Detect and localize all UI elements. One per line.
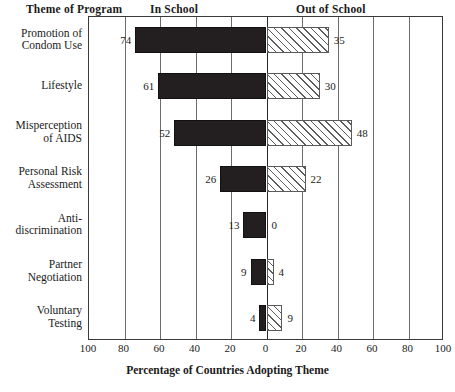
x-tick-label: 60 <box>154 342 165 354</box>
category-label: Anti-discrimination <box>0 212 82 237</box>
category-label-line: discrimination <box>0 224 82 237</box>
category-label: Misperceptionof AIDS <box>0 119 82 144</box>
x-tick-label: 20 <box>296 342 307 354</box>
x-tick-label: 100 <box>435 342 452 354</box>
bar-out-of-school <box>267 305 283 331</box>
bar-out-of-school <box>267 166 306 192</box>
bar-in-school <box>174 120 266 146</box>
category-label-line: Promotion of <box>0 27 82 40</box>
value-label-in-school: 74 <box>105 34 131 46</box>
plot-area: 74356130524826221309449 <box>88 16 443 340</box>
category-label-line: Misperception <box>0 119 82 132</box>
bar-out-of-school <box>267 120 352 146</box>
value-label-in-school: 9 <box>221 266 247 278</box>
category-label-line: Partner <box>0 258 82 271</box>
x-tick-label: 80 <box>118 342 129 354</box>
x-tick-label: 40 <box>331 342 342 354</box>
category-label-line: Testing <box>0 317 82 330</box>
value-label-in-school: 52 <box>144 127 170 139</box>
x-tick-label: 40 <box>189 342 200 354</box>
bar-in-school <box>243 212 266 238</box>
value-label-in-school: 4 <box>229 312 255 324</box>
value-label-in-school: 61 <box>128 80 154 92</box>
bar-out-of-school <box>267 259 274 285</box>
bar-row: 49 <box>89 295 442 341</box>
column-header-out-of-school: Out of School <box>296 3 366 15</box>
chart-root: Theme of Program In School Out of School… <box>0 0 455 392</box>
bar-row: 7435 <box>89 17 442 63</box>
value-label-out-of-school: 22 <box>311 173 322 185</box>
value-label-out-of-school: 4 <box>279 266 285 278</box>
x-tick-label: 0 <box>263 342 269 354</box>
value-label-out-of-school: 35 <box>334 34 345 46</box>
bar-row: 5248 <box>89 110 442 156</box>
value-label-out-of-school: 0 <box>272 219 278 231</box>
x-tick-label: 100 <box>80 342 97 354</box>
category-label-line: Personal Risk <box>0 165 82 178</box>
bar-row: 130 <box>89 202 442 248</box>
category-label-line: Voluntary <box>0 304 82 317</box>
bar-row: 2622 <box>89 156 442 202</box>
bar-in-school <box>158 73 266 99</box>
category-label: VoluntaryTesting <box>0 304 82 329</box>
value-label-out-of-school: 30 <box>325 80 336 92</box>
value-label-in-school: 13 <box>213 219 239 231</box>
bar-out-of-school <box>267 27 329 53</box>
category-label-line: of AIDS <box>0 132 82 145</box>
bar-in-school <box>259 305 266 331</box>
category-label: PartnerNegotiation <box>0 258 82 283</box>
bar-row: 6130 <box>89 63 442 109</box>
bar-out-of-school <box>267 73 320 99</box>
x-tick-label: 20 <box>225 342 236 354</box>
column-header-theme: Theme of Program <box>26 3 122 15</box>
category-label: Lifestyle <box>0 79 82 92</box>
value-label-out-of-school: 48 <box>357 127 368 139</box>
column-header-in-school: In School <box>150 3 198 15</box>
x-axis-title: Percentage of Countries Adopting Theme <box>0 364 455 376</box>
bar-in-school <box>135 27 266 53</box>
category-label: Promotion ofCondom Use <box>0 27 82 52</box>
category-label-line: Anti- <box>0 212 82 225</box>
category-label-line: Assessment <box>0 178 82 191</box>
category-label: Personal RiskAssessment <box>0 165 82 190</box>
bar-row: 94 <box>89 248 442 294</box>
bar-in-school <box>251 259 267 285</box>
x-tick-label: 60 <box>367 342 378 354</box>
category-label-line: Condom Use <box>0 39 82 52</box>
value-label-out-of-school: 9 <box>287 312 293 324</box>
category-label-line: Negotiation <box>0 271 82 284</box>
value-label-in-school: 26 <box>190 173 216 185</box>
x-tick-label: 80 <box>402 342 413 354</box>
bar-in-school <box>220 166 266 192</box>
category-label-line: Lifestyle <box>0 79 82 92</box>
